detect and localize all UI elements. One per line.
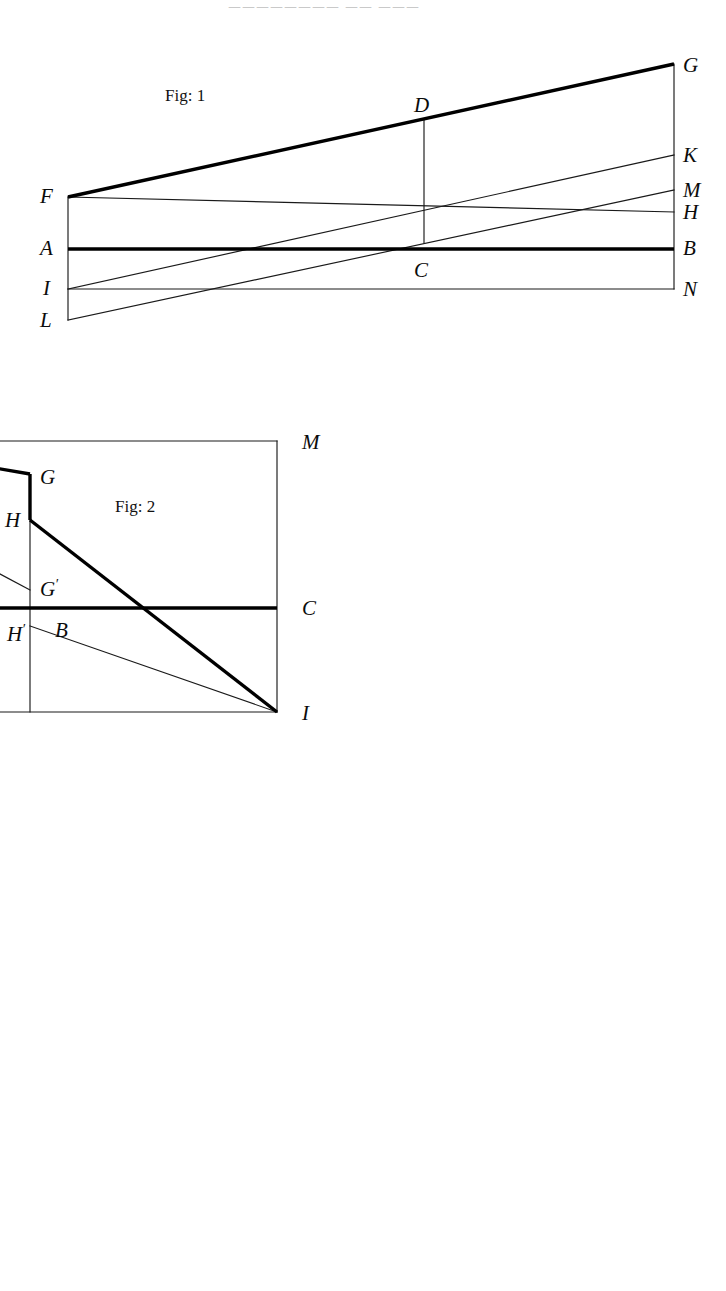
fig1-label-F: F	[39, 184, 53, 208]
page-canvas: 二二二二二二二二 二二 二二二 Fig: 1 G D K F M H A B C…	[0, 0, 726, 1291]
fig2-label-Gprime-group: G ′	[40, 577, 59, 601]
fig1-label-L: L	[39, 308, 52, 332]
fig2-thin-lines	[0, 402, 277, 712]
fig2-chord-F-Gprime	[0, 402, 30, 590]
figure-1: Fig: 1 G D K F M H A B C I N L	[0, 0, 726, 345]
fig1-label-I: I	[42, 276, 51, 300]
fig1-label-H: H	[682, 200, 700, 224]
fig1-label-K: K	[682, 143, 698, 167]
fig2-label-I: I	[301, 701, 310, 725]
fig1-line-IK	[68, 155, 674, 289]
fig2-line-HI	[30, 520, 277, 712]
figure-2: Fig: 2 F N L M G H G ′ A C O H ′ B K I	[0, 385, 726, 745]
fig2-label-Hprime-mark: ′	[22, 622, 26, 637]
fig2-label-H: H	[4, 508, 22, 532]
fig2-label-B: B	[55, 618, 68, 642]
fig2-label-M: M	[301, 430, 321, 454]
fig1-thick-lines	[68, 64, 674, 249]
fig2-label-Gprime-mark: ′	[55, 577, 59, 592]
fig1-label-M: M	[682, 178, 702, 202]
fig1-line-FG	[68, 64, 674, 197]
fig1-line-LM	[68, 190, 674, 320]
fig1-thin-lines	[68, 64, 674, 320]
fig1-label-C: C	[414, 258, 429, 282]
fig1-label-A: A	[38, 236, 53, 260]
fig2-label-C: C	[302, 596, 317, 620]
fig2-path-F-N-G	[0, 402, 30, 474]
fig1-label-N: N	[682, 277, 698, 301]
fig1-label-D: D	[413, 93, 429, 117]
fig1-label-G: G	[683, 53, 698, 77]
fig1-caption: Fig: 1	[165, 86, 205, 105]
fig2-thick-lines	[0, 402, 277, 712]
fig2-label-Hprime-group: H ′	[6, 622, 26, 646]
fig2-label-Gprime: G	[40, 577, 55, 601]
figure-3: Fig: 3 R V L P U Q G K Y ″ K ′ Y I F F ′…	[0, 795, 726, 1291]
fig2-caption: Fig: 2	[115, 497, 155, 516]
fig2-label-G: G	[40, 465, 55, 489]
fig1-label-B: B	[683, 236, 696, 260]
